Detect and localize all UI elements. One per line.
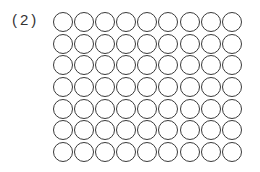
circle-icon (95, 77, 115, 97)
circle-icon (137, 120, 157, 140)
circle-icon (158, 77, 178, 97)
circle-icon (116, 12, 136, 32)
circle-icon (222, 99, 242, 119)
circle-icon (180, 34, 200, 54)
circle-icon (95, 34, 115, 54)
circle-icon (74, 99, 94, 119)
circle-icon (222, 34, 242, 54)
circle-icon (74, 142, 94, 162)
circle-icon (158, 120, 178, 140)
circle-icon (53, 142, 73, 162)
circle-icon (201, 99, 221, 119)
circle-icon (158, 34, 178, 54)
circle-icon (95, 12, 115, 32)
circle-icon (116, 55, 136, 75)
circle-icon (222, 55, 242, 75)
circle-icon (53, 12, 73, 32)
circle-icon (95, 99, 115, 119)
circle-icon (158, 142, 178, 162)
circle-grid (53, 12, 243, 164)
circle-icon (180, 55, 200, 75)
circle-icon (201, 120, 221, 140)
circle-icon (180, 142, 200, 162)
circle-icon (158, 99, 178, 119)
circle-icon (53, 120, 73, 140)
circle-icon (180, 77, 200, 97)
circle-icon (180, 12, 200, 32)
circle-icon (201, 12, 221, 32)
circle-icon (137, 34, 157, 54)
circle-icon (95, 120, 115, 140)
circle-icon (116, 34, 136, 54)
circle-icon (116, 99, 136, 119)
circle-icon (137, 55, 157, 75)
circle-icon (53, 77, 73, 97)
circle-icon (95, 55, 115, 75)
circle-icon (137, 77, 157, 97)
circle-icon (53, 55, 73, 75)
circle-icon (53, 34, 73, 54)
circle-icon (222, 77, 242, 97)
circle-icon (74, 77, 94, 97)
circle-icon (116, 77, 136, 97)
circle-icon (222, 12, 242, 32)
circle-icon (201, 55, 221, 75)
circle-icon (201, 142, 221, 162)
circle-icon (158, 55, 178, 75)
circle-icon (53, 99, 73, 119)
circle-icon (74, 120, 94, 140)
circle-icon (95, 142, 115, 162)
circle-icon (222, 120, 242, 140)
circle-icon (222, 142, 242, 162)
circle-icon (137, 142, 157, 162)
circle-icon (74, 12, 94, 32)
circle-icon (137, 12, 157, 32)
circle-icon (137, 99, 157, 119)
circle-icon (158, 12, 178, 32)
circle-icon (180, 99, 200, 119)
circle-icon (74, 34, 94, 54)
problem-number-label: (2) (12, 11, 39, 29)
circle-icon (180, 120, 200, 140)
circle-icon (116, 120, 136, 140)
circle-icon (201, 77, 221, 97)
circle-icon (74, 55, 94, 75)
circle-icon (201, 34, 221, 54)
circle-icon (116, 142, 136, 162)
